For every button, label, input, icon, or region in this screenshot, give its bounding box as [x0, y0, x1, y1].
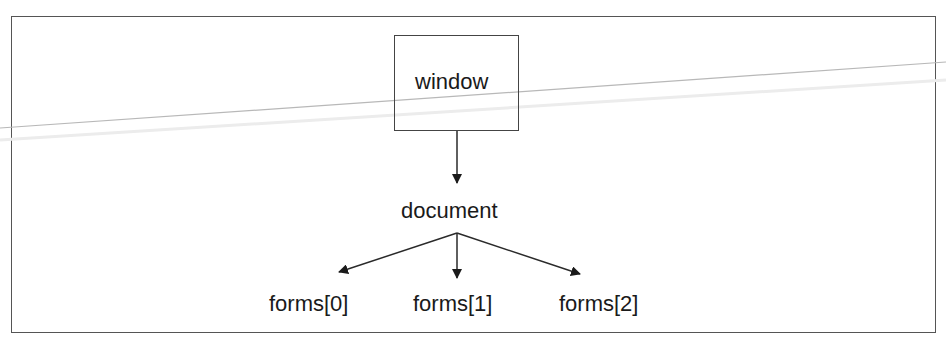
edge-document-forms2 [457, 233, 580, 274]
edge-document-forms0 [339, 233, 457, 272]
forms2-node-label: forms[2] [559, 293, 638, 315]
forms0-node-label: forms[0] [269, 293, 348, 315]
forms1-node-label: forms[1] [413, 293, 492, 315]
window-node-label: window [415, 71, 488, 93]
document-node-label: document [401, 200, 498, 222]
